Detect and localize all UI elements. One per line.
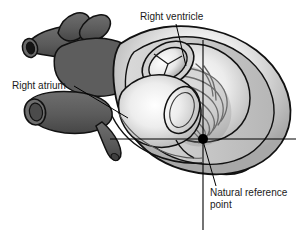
right-atrium-cavity [119,75,201,148]
label-right-atrium: Right atrium [12,80,66,91]
heart-anatomy-illustration: Right ventricle Right atrium Natural ref… [0,0,308,234]
label-right-ventricle: Right ventricle [140,11,204,22]
label-natural-reference-point-line1: Natural reference [210,187,288,198]
label-natural-reference-point-line2: point [210,199,232,210]
figure-page: Right ventricle Right atrium Natural ref… [0,0,308,234]
heart-body-group: Right ventricle Right atrium Natural ref… [12,11,296,230]
